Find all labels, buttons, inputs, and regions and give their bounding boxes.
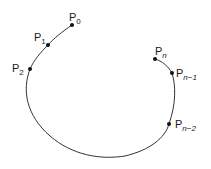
label-p2: P2 xyxy=(12,62,24,77)
point-p1-marker xyxy=(46,43,50,47)
point-pn-marker xyxy=(153,57,157,61)
label-pn: Pn xyxy=(155,45,167,60)
point-p0-marker xyxy=(70,23,74,27)
point-pn2-marker xyxy=(167,122,171,126)
point-p2-marker xyxy=(28,67,32,71)
curve-diagram: P0 P1 P2 Pn Pn−1 Pn−2 xyxy=(0,0,211,169)
label-pn-minus-2: Pn−2 xyxy=(175,118,196,133)
label-pn-minus-1: Pn−1 xyxy=(176,67,197,82)
label-p1: P1 xyxy=(34,31,46,46)
point-pn1-marker xyxy=(170,71,174,75)
